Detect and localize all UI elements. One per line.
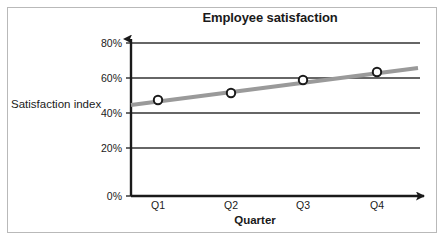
gridlines (131, 43, 420, 148)
x-axis-title: Quarter (200, 214, 310, 226)
x-tick-label-q1: Q1 (138, 199, 178, 211)
x-tick-label-q2: Q2 (211, 199, 251, 211)
chart-figure: Employee satisfaction Satisfaction index… (0, 0, 446, 241)
data-point-q1 (154, 96, 162, 104)
y-tick-label-60: 60% (88, 72, 122, 84)
chart-title: Employee satisfaction (170, 10, 370, 25)
data-point-q4 (373, 68, 381, 76)
x-tick-label-q3: Q3 (283, 199, 323, 211)
y-tick-label-0: 0% (88, 190, 122, 202)
data-point-q3 (299, 76, 307, 84)
data-point-q2 (227, 89, 235, 97)
y-tick-label-80: 80% (88, 37, 122, 49)
x-tick-label-q4: Q4 (357, 199, 397, 211)
y-tick-label-20: 20% (88, 142, 122, 154)
y-tick-label-40: 40% (88, 107, 122, 119)
